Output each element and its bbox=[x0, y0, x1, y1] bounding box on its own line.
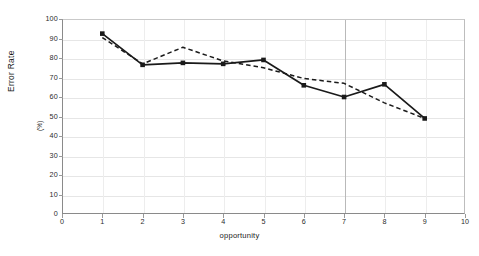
gridline-horizontal bbox=[63, 79, 464, 80]
x-axis-tick-mark bbox=[183, 214, 184, 218]
gridline-horizontal bbox=[63, 176, 464, 177]
gridline-horizontal bbox=[63, 137, 464, 138]
y-axis-tick-label: 10 bbox=[30, 191, 58, 198]
gridline-horizontal bbox=[63, 118, 464, 119]
y-axis-tick-mark bbox=[59, 78, 63, 79]
gridline-horizontal bbox=[63, 40, 464, 41]
x-axis-tick-label: 3 bbox=[171, 218, 195, 225]
x-axis-tick-label: 10 bbox=[453, 218, 477, 225]
gridline-vertical bbox=[144, 20, 145, 213]
y-axis-tick-mark bbox=[59, 97, 63, 98]
y-axis-tick-mark bbox=[59, 19, 63, 20]
y-axis-tick-mark bbox=[59, 39, 63, 40]
chart-figure: 0102030405060708090100 012345678910 Erro… bbox=[0, 0, 479, 256]
x-axis-tick-mark bbox=[344, 214, 345, 218]
y-axis-title: Error Rate bbox=[6, 50, 16, 92]
x-axis-tick-label: 2 bbox=[131, 218, 155, 225]
x-axis-tick-mark bbox=[143, 214, 144, 218]
gridline-vertical bbox=[385, 20, 386, 213]
y-axis-tick-mark bbox=[59, 175, 63, 176]
y-axis-tick-mark bbox=[59, 136, 63, 137]
y-axis-tick-label: 90 bbox=[30, 35, 58, 42]
x-axis-tick-label: 0 bbox=[50, 218, 74, 225]
gridline-horizontal bbox=[63, 196, 464, 197]
gridline-vertical bbox=[103, 20, 104, 213]
x-axis-tick-label: 5 bbox=[252, 218, 276, 225]
x-axis-tick-mark bbox=[264, 214, 265, 218]
y-axis-tick-mark bbox=[59, 58, 63, 59]
y-axis-tick-label: 80 bbox=[30, 54, 58, 61]
gridline-horizontal bbox=[63, 98, 464, 99]
y-axis-tick-label: 50 bbox=[30, 113, 58, 120]
gridline-vertical bbox=[305, 20, 306, 213]
gridline-vertical bbox=[426, 20, 427, 213]
gridline-horizontal bbox=[63, 59, 464, 60]
y-axis-tick-label: 0 bbox=[30, 210, 58, 217]
y-axis-tick-mark bbox=[59, 195, 63, 196]
x-axis-title: opportunity bbox=[0, 231, 479, 240]
x-axis-tick-label: 1 bbox=[90, 218, 114, 225]
x-axis-tick-label: 4 bbox=[211, 218, 235, 225]
y-axis-tick-label: 100 bbox=[30, 15, 58, 22]
y-axis-tick-label: 20 bbox=[30, 171, 58, 178]
x-axis-tick-mark bbox=[102, 214, 103, 218]
plot-area bbox=[62, 19, 465, 214]
x-axis-tick-mark bbox=[465, 214, 466, 218]
y-axis-unit-label: (%) bbox=[36, 121, 43, 131]
gridline-vertical bbox=[265, 20, 266, 213]
gridline-horizontal bbox=[63, 157, 464, 158]
x-axis-tick-mark bbox=[384, 214, 385, 218]
x-axis-tick-label: 6 bbox=[292, 218, 316, 225]
gridline-vertical bbox=[184, 20, 185, 213]
y-axis-tick-label: 40 bbox=[30, 132, 58, 139]
y-axis-tick-mark bbox=[59, 156, 63, 157]
x-axis-tick-mark bbox=[425, 214, 426, 218]
x-axis-tick-mark bbox=[62, 214, 63, 218]
y-axis-tick-label: 30 bbox=[30, 152, 58, 159]
x-axis-tick-mark bbox=[223, 214, 224, 218]
x-axis-tick-mark bbox=[304, 214, 305, 218]
gridline-vertical bbox=[224, 20, 225, 213]
y-axis-tick-label: 70 bbox=[30, 74, 58, 81]
x-axis-tick-label: 8 bbox=[372, 218, 396, 225]
y-axis-tick-mark bbox=[59, 117, 63, 118]
x-axis-tick-label: 7 bbox=[332, 218, 356, 225]
x-axis-tick-label: 9 bbox=[413, 218, 437, 225]
y-axis-tick-label: 60 bbox=[30, 93, 58, 100]
gridline-vertical-marker bbox=[345, 20, 346, 213]
